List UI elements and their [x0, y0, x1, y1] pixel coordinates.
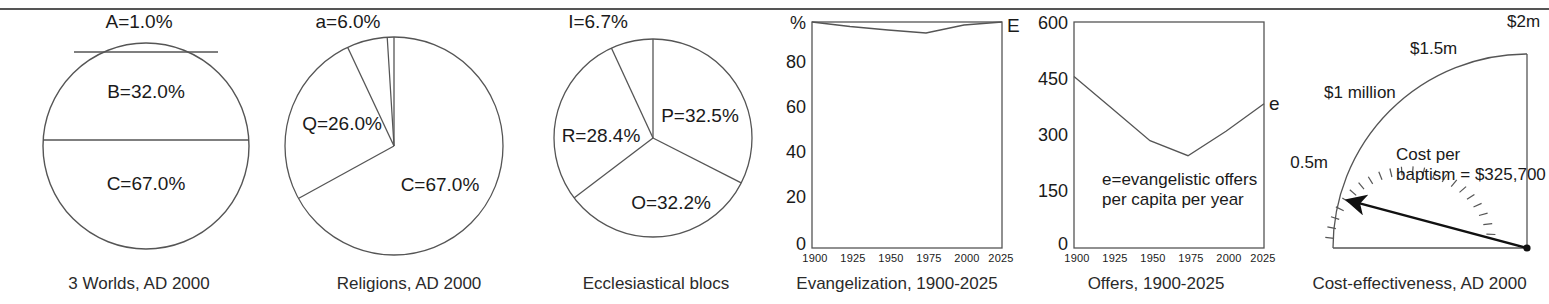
- slice-label-r: R=28.4%: [562, 125, 641, 146]
- y-tick-label-0-offers: 0: [1058, 234, 1068, 254]
- offers-plot-frame: [1074, 22, 1264, 248]
- x-tick-label-1975: 1975: [916, 252, 941, 264]
- offers-annotation-line2: per capita per year: [1102, 190, 1244, 209]
- slice-label-o: O=32.2%: [631, 192, 711, 213]
- series-label-e: E: [1007, 15, 1020, 36]
- x-tick-label-1975-offers: 1975: [1178, 252, 1203, 264]
- panel-caption-ecclesiastical-blocs: Ecclesiastical blocs: [540, 274, 772, 294]
- x-tick-label-1900-offers: 1900: [1064, 252, 1089, 264]
- gauge-pivot: [1523, 244, 1530, 251]
- y-tick-label-0: 0: [796, 234, 806, 254]
- y-tick-label-80: 80: [786, 52, 806, 72]
- gauge-annotation-line1: Cost per: [1396, 145, 1461, 164]
- x-tick-label-1900: 1900: [802, 252, 827, 264]
- x-tick-label-1950-offers: 1950: [1140, 252, 1165, 264]
- slice-label-i: I=6.7%: [568, 11, 628, 32]
- slice-label-p: P=32.5%: [661, 105, 739, 126]
- y-tick-label-20: 20: [786, 187, 806, 207]
- y-tick-label-600: 600: [1038, 13, 1068, 33]
- gauge-label-2m: $2m: [1507, 12, 1540, 31]
- series-line-e: [812, 22, 1002, 33]
- pie-divider-a-sliver: [387, 37, 394, 146]
- three-worlds-circle: [43, 43, 249, 249]
- panel-offers: 600 450 300 150 0 1900 1925 1950 1975 20…: [1022, 0, 1290, 304]
- gauge-label-0-5m: $0.5m: [1290, 153, 1328, 172]
- y-tick-label-450: 450: [1038, 69, 1068, 89]
- panel-cost-effectiveness: $0.5m $1 million $1.5m $2m Cost per bapt…: [1290, 0, 1549, 304]
- offers-annotation-line1: e=evangelistic offers: [1102, 170, 1257, 189]
- panel-caption-offers: Offers, 1900-2025: [1022, 274, 1290, 294]
- y-tick-label-60: 60: [786, 97, 806, 117]
- panel-caption-evangelization: Evangelization, 1900-2025: [772, 274, 1022, 294]
- x-tick-label-2000-offers: 2000: [1216, 252, 1241, 264]
- gauge-annotation-line2: baptism = $325,700: [1396, 165, 1546, 184]
- y-tick-label-40: 40: [786, 142, 806, 162]
- gauge-label-1-5m: $1.5m: [1410, 39, 1457, 58]
- slice-label-c: C=67.0%: [107, 173, 186, 194]
- evangelization-plot-frame: [812, 22, 1002, 248]
- panel-caption-three-worlds: 3 Worlds, AD 2000: [0, 274, 278, 294]
- chart-cost-effectiveness: $0.5m $1 million $1.5m $2m Cost per bapt…: [1290, 0, 1549, 268]
- x-tick-label-1950: 1950: [878, 252, 903, 264]
- pie-divider-p-o: [653, 138, 741, 183]
- y-tick-label-pct: %: [790, 13, 806, 33]
- pie-divider-c-q: [298, 146, 394, 199]
- chart-evangelization: % 80 60 40 20 0 1900 1925 1950 1975 2000…: [772, 0, 1022, 268]
- x-tick-label-2025: 2025: [988, 252, 1013, 264]
- x-tick-label-1925: 1925: [840, 252, 865, 264]
- slice-label-c-religions: C=67.0%: [401, 174, 480, 195]
- chart-offers: 600 450 300 150 0 1900 1925 1950 1975 20…: [1022, 0, 1290, 268]
- panel-caption-religions: Religions, AD 2000: [278, 274, 540, 294]
- x-tick-label-1925-offers: 1925: [1102, 252, 1127, 264]
- chart-three-worlds: A=1.0% B=32.0% C=67.0%: [0, 0, 278, 268]
- series-label-e-offers: e: [1269, 93, 1280, 114]
- slice-label-q: Q=26.0%: [302, 113, 382, 134]
- chart-ecclesiastical-blocs: I=6.7% P=32.5% R=28.4% O=32.2%: [540, 0, 772, 268]
- y-tick-label-300: 300: [1038, 125, 1068, 145]
- y-tick-label-150: 150: [1038, 181, 1068, 201]
- panel-religions: a=6.0% Q=26.0% C=67.0% Religions, AD 200…: [278, 0, 540, 304]
- panel-evangelization: % 80 60 40 20 0 1900 1925 1950 1975 2000…: [772, 0, 1022, 304]
- x-tick-label-2025-offers: 2025: [1250, 252, 1275, 264]
- gauge-needle: [1349, 200, 1528, 248]
- slice-label-b: B=32.0%: [107, 81, 185, 102]
- gauge-label-1-million: $1 million: [1324, 83, 1396, 102]
- figure-strip: A=1.0% B=32.0% C=67.0% 3 Worlds, AD 2000…: [0, 0, 1549, 304]
- panel-caption-cost-effectiveness: Cost-effectiveness, AD 2000: [1290, 274, 1549, 294]
- chart-religions: a=6.0% Q=26.0% C=67.0%: [278, 0, 540, 268]
- panel-three-worlds: A=1.0% B=32.0% C=67.0% 3 Worlds, AD 2000: [0, 0, 278, 304]
- series-line-e-offers: [1074, 77, 1264, 156]
- slice-label-a-small: a=6.0%: [316, 11, 381, 32]
- slice-label-a: A=1.0%: [105, 11, 172, 32]
- pie-divider-o-r: [574, 138, 653, 198]
- panel-ecclesiastical-blocs: I=6.7% P=32.5% R=28.4% O=32.2% Ecclesias…: [540, 0, 772, 304]
- x-tick-label-2000: 2000: [954, 252, 979, 264]
